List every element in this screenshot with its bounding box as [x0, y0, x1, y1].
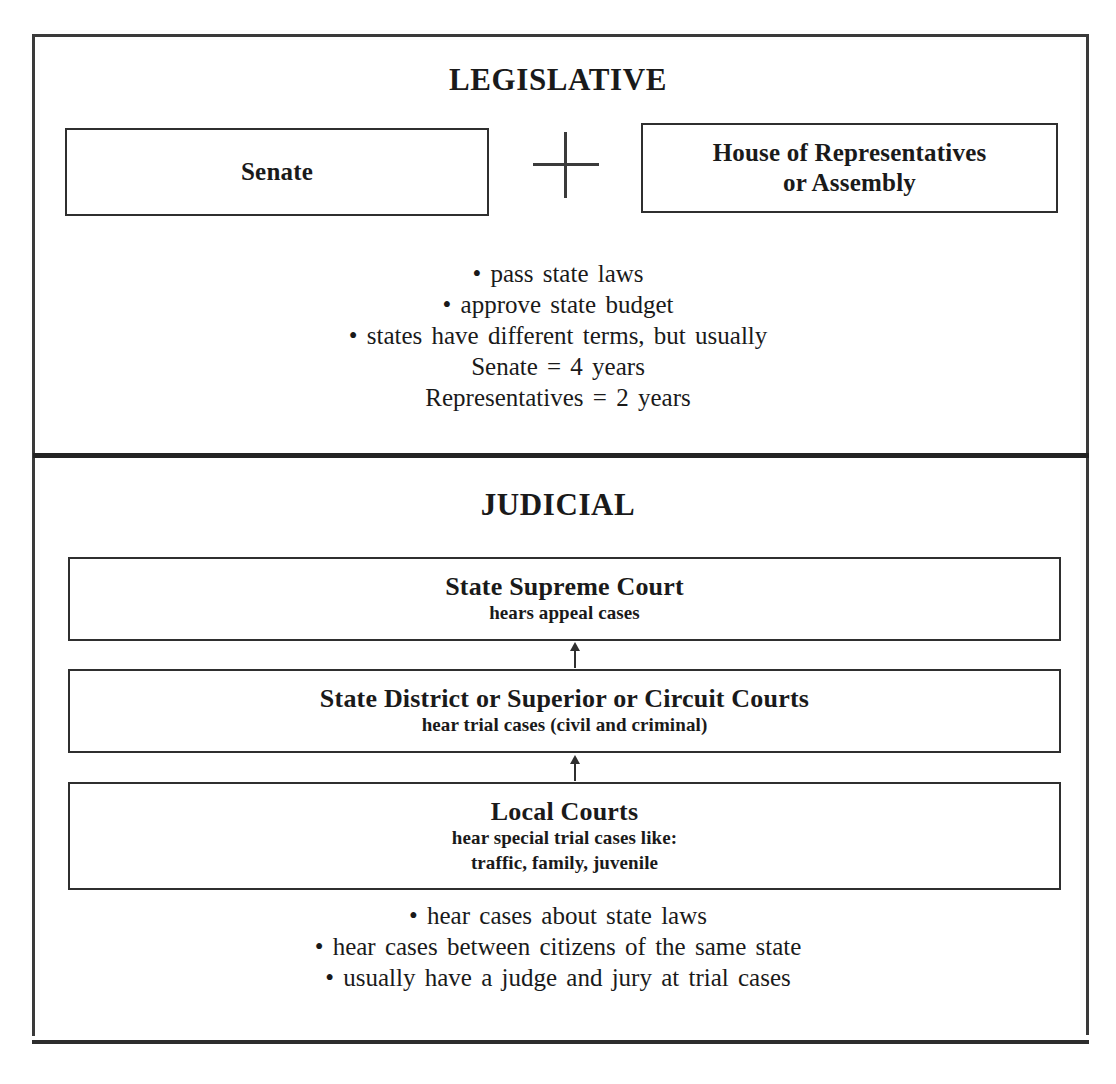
- list-item: Representatives = 2 years: [0, 382, 1116, 413]
- judicial-section-heading: JUDICIAL: [0, 487, 1116, 523]
- diagram-canvas: LEGISLATIVE Senate House of Representati…: [0, 0, 1116, 1084]
- legislative-section-heading: LEGISLATIVE: [0, 62, 1116, 98]
- arrow-up-icon-local-to-district: [568, 755, 582, 781]
- house-label-line-2: or Assembly: [783, 168, 916, 199]
- list-item: • hear cases between citizens of the sam…: [0, 931, 1116, 962]
- local-courts-subtitle-line-2: traffic, family, juvenile: [471, 851, 658, 875]
- local-courts-box: Local Courts hear special trial cases li…: [68, 782, 1061, 890]
- plus-icon-vertical-bar: [564, 132, 567, 198]
- judicial-bullet-list: • hear cases about state laws • hear cas…: [0, 900, 1116, 993]
- state-district-court-box: State District or Superior or Circuit Co…: [68, 669, 1061, 753]
- senate-box: Senate: [65, 128, 489, 216]
- list-item: Senate = 4 years: [0, 351, 1116, 382]
- frame-top-border: [32, 34, 1088, 37]
- senate-label: Senate: [241, 157, 313, 188]
- house-of-representatives-box: House of Representatives or Assembly: [641, 123, 1058, 213]
- list-item: • pass state laws: [0, 258, 1116, 289]
- state-supreme-court-title: State Supreme Court: [445, 572, 684, 601]
- state-supreme-court-subtitle: hears appeal cases: [489, 601, 640, 625]
- arrow-up-icon-district-to-supreme: [568, 642, 582, 668]
- plus-icon: [533, 132, 599, 198]
- state-supreme-court-box: State Supreme Court hears appeal cases: [68, 557, 1061, 641]
- legislative-bullet-list: • pass state laws • approve state budget…: [0, 258, 1116, 413]
- arrow-shaft: [574, 648, 576, 668]
- section-divider: [33, 453, 1089, 458]
- state-district-court-subtitle: hear trial cases (civil and criminal): [422, 713, 708, 737]
- list-item: • states have different terms, but usual…: [0, 320, 1116, 351]
- house-label-line-1: House of Representatives: [713, 138, 987, 169]
- frame-right-border: [1086, 34, 1089, 1035]
- arrow-shaft: [574, 761, 576, 781]
- state-district-court-title: State District or Superior or Circuit Co…: [320, 684, 809, 713]
- list-item: • usually have a judge and jury at trial…: [0, 962, 1116, 993]
- local-courts-title: Local Courts: [491, 797, 639, 826]
- frame-bottom-border: [32, 1040, 1089, 1044]
- local-courts-subtitle-line-1: hear special trial cases like:: [452, 826, 677, 850]
- list-item: • approve state budget: [0, 289, 1116, 320]
- frame-left-border: [32, 34, 35, 1036]
- list-item: • hear cases about state laws: [0, 900, 1116, 931]
